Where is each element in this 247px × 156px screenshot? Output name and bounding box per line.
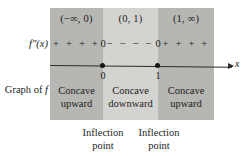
concavity-interval-1-line1: Concave (103, 84, 158, 97)
second-derivative-row-label: f″(x) (16, 37, 48, 51)
x-axis-label: x (235, 58, 239, 69)
concavity-interval-2: Concave upward (158, 84, 214, 110)
concavity-interval-2-line1: Concave (158, 84, 214, 97)
sign-marks-interval-1: − − − − (103, 37, 158, 51)
graph-of-f-text: Graph of f (5, 84, 48, 95)
inflection-point-caption-0-line2: point (72, 139, 134, 152)
concavity-interval-2-line2: upward (158, 97, 214, 110)
sign-marks-interval-0: + + + + (50, 37, 103, 51)
inflection-point-caption-1: Inflection point (128, 126, 190, 152)
concavity-sign-chart: (−∞, 0) (0, 1) (1, ∞) f″(x) + + + + 0 − … (0, 0, 247, 156)
axis-tick-label-0: 0 (97, 69, 109, 82)
interval-notation-2: (1, ∞) (158, 12, 214, 26)
concavity-interval-0-line2: upward (50, 97, 103, 110)
concavity-interval-0-line1: Concave (50, 84, 103, 97)
axis-tick-label-1: 1 (152, 69, 164, 82)
concavity-interval-1-line2: downward (103, 97, 158, 110)
inflection-point-caption-0-line1: Inflection (72, 126, 134, 139)
inflection-point-caption-1-line2: point (128, 139, 190, 152)
axis-point-dot-0 (100, 63, 105, 68)
interval-notation-0: (−∞, 0) (50, 12, 103, 26)
concavity-interval-1: Concave downward (103, 84, 158, 110)
graph-of-f-row-label: Graph of f (2, 83, 48, 97)
inflection-point-caption-0: Inflection point (72, 126, 134, 152)
inflection-point-caption-1-line1: Inflection (128, 126, 190, 139)
concavity-interval-0: Concave upward (50, 84, 103, 110)
x-axis-arrow-icon (228, 63, 234, 69)
sign-marks-interval-2: + + + + (158, 37, 214, 51)
axis-point-dot-1 (155, 63, 160, 68)
interval-notation-1: (0, 1) (103, 12, 158, 26)
